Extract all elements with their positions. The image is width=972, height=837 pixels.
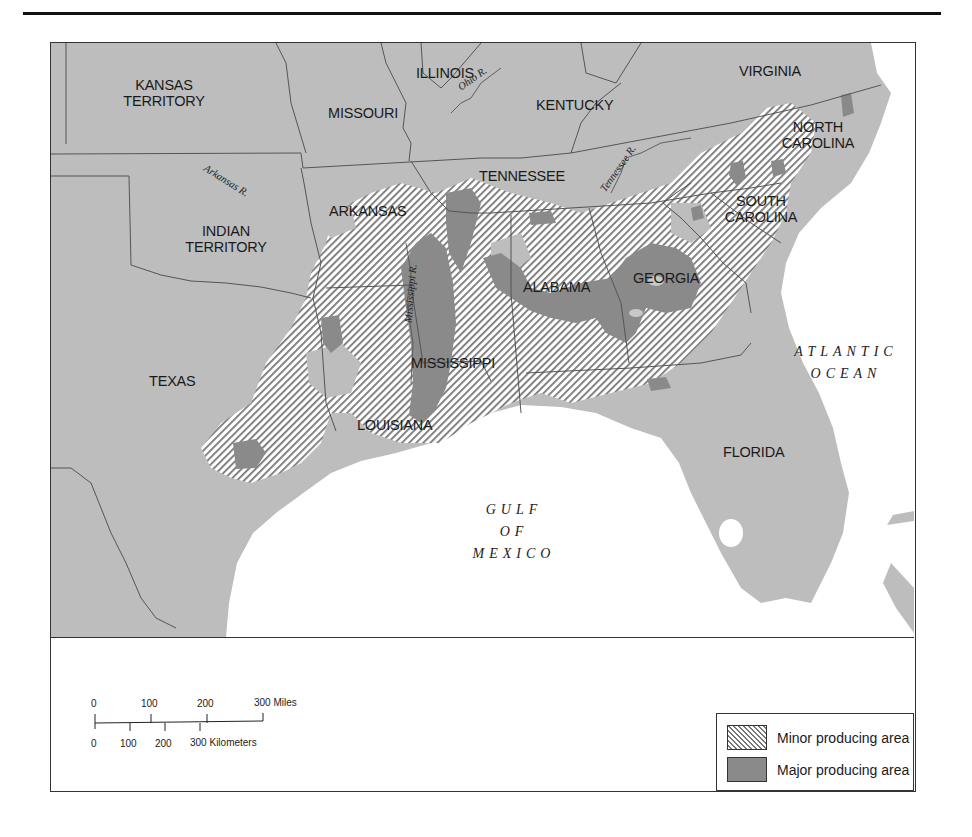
label-gulf-of-mexico: GULF OF MEXICO — [459, 499, 569, 565]
label-south-carolina: SOUTH CAROLINA — [716, 193, 806, 225]
label-florida: FLORIDA — [723, 444, 784, 460]
legend-label-major: Major producing area — [777, 762, 909, 778]
scale-km-200: 200 — [155, 738, 172, 749]
scale-miles-300: 300 Miles — [254, 697, 297, 708]
scale-km-300: 300 Kilometers — [190, 737, 257, 748]
label-tennessee: TENNESSEE — [479, 168, 565, 184]
label-alabama: ALABAMA — [523, 279, 590, 295]
legend: Minor producing area Major producing are… — [716, 713, 914, 791]
label-georgia: GEORGIA — [633, 270, 699, 286]
label-mississippi: MISSISSIPPI — [411, 355, 495, 371]
map-panel: KANSAS TERRITORY MISSOURI ILLINOIS KENTU… — [51, 43, 914, 638]
scale-km-0: 0 — [91, 738, 97, 749]
label-missouri: MISSOURI — [328, 105, 398, 121]
minor-area-swatch-icon — [727, 725, 767, 750]
label-virginia: VIRGINIA — [739, 63, 801, 79]
scale-km-100: 100 — [120, 738, 137, 749]
legend-item-minor: Minor producing area — [727, 725, 909, 750]
label-indian-territory: INDIAN TERRITORY — [176, 223, 276, 255]
major-area-swatch-icon — [727, 757, 767, 782]
label-louisiana: LOUISIANA — [357, 417, 433, 433]
legend-label-minor: Minor producing area — [777, 730, 909, 746]
label-texas: TEXAS — [149, 373, 196, 389]
legend-item-major: Major producing area — [727, 757, 909, 782]
label-kentucky: KENTUCKY — [536, 97, 613, 113]
map-figure: KANSAS TERRITORY MISSOURI ILLINOIS KENTU… — [50, 42, 916, 792]
label-arkansas: ARKANSAS — [329, 203, 406, 219]
label-kansas-territory: KANSAS TERRITORY — [114, 77, 214, 109]
label-north-carolina: NORTH CAROLINA — [773, 119, 863, 151]
top-rule — [23, 12, 941, 15]
scale-bar: 0 100 200 300 Miles 0 100 200 300 Kilome… — [85, 693, 315, 763]
scale-miles-0: 0 — [91, 698, 97, 709]
scale-miles-100: 100 — [141, 698, 158, 709]
label-atlantic-ocean: ATLANTIC OCEAN — [776, 341, 914, 385]
scale-miles-200: 200 — [197, 698, 214, 709]
